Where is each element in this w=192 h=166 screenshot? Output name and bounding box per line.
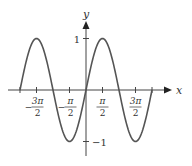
x-tick-label-denominator: 2	[100, 108, 106, 118]
x-tick-label-denominator: 2	[133, 108, 139, 118]
x-tick-label-sign: −	[58, 102, 66, 112]
x-tick-label-denominator: 2	[35, 108, 41, 118]
x-tick-label-numerator: 3π	[130, 96, 143, 106]
y-axis-arrow-icon	[83, 21, 90, 29]
x-axis-label: x	[176, 84, 183, 97]
x-tick-label-numerator: π	[67, 96, 75, 106]
x-tick-label-numerator: π	[99, 96, 107, 106]
x-tick-label-denominator: 2	[68, 108, 74, 118]
sine-chart: x y 3π2−π2−π23π21−1	[0, 0, 192, 166]
x-tick-label-numerator: 3π	[32, 96, 45, 106]
y-tick-label: −1	[92, 137, 107, 148]
x-axis-arrow-icon	[164, 87, 172, 94]
y-tick-label: 1	[74, 34, 80, 45]
y-axis-label: y	[82, 8, 90, 21]
x-tick-label-sign: −	[25, 102, 33, 112]
